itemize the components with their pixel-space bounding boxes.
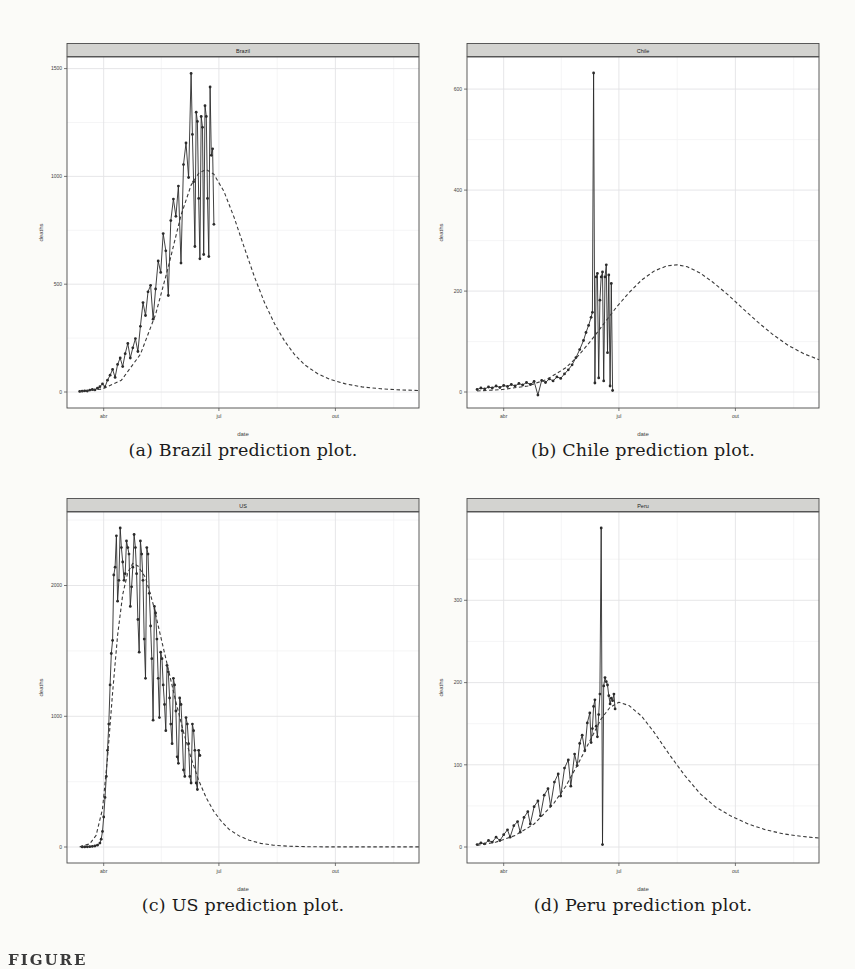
panel-brazil: Brazilabrjulout050010001500datedeaths (a… <box>36 43 426 460</box>
svg-text:abr: abr <box>500 868 508 874</box>
svg-text:0: 0 <box>459 389 462 395</box>
svg-text:out: out <box>732 413 740 419</box>
svg-text:200: 200 <box>454 679 463 685</box>
svg-text:abr: abr <box>100 413 108 419</box>
svg-text:0: 0 <box>59 389 62 395</box>
brazil-prediction-chart: Brazilabrjulout050010001500datedeaths <box>36 43 426 438</box>
svg-text:1500: 1500 <box>51 65 62 71</box>
panel-chile: Chileabrjulout0200400600datedeaths (b) C… <box>436 43 826 460</box>
svg-text:Chile: Chile <box>637 48 650 54</box>
svg-text:300: 300 <box>454 597 463 603</box>
svg-text:200: 200 <box>454 288 463 294</box>
svg-text:600: 600 <box>454 86 463 92</box>
panel-peru: Peruabrjulout0100200300datedeaths (d) Pe… <box>436 498 826 915</box>
svg-text:US: US <box>239 503 247 509</box>
brazil-chart-svg: Brazilabrjulout050010001500datedeaths <box>36 43 426 438</box>
svg-text:date: date <box>637 431 649 437</box>
svg-text:deaths: deaths <box>438 223 444 241</box>
svg-text:100: 100 <box>454 762 463 768</box>
svg-text:out: out <box>332 413 340 419</box>
caption-a: (a) Brazil prediction plot. <box>67 440 419 460</box>
svg-text:500: 500 <box>54 281 63 287</box>
us-chart-svg: USabrjulout010002000datedeaths <box>36 498 426 893</box>
svg-text:out: out <box>732 868 740 874</box>
chile-prediction-chart: Chileabrjulout0200400600datedeaths <box>436 43 826 438</box>
svg-text:jul: jul <box>215 868 221 874</box>
svg-text:0: 0 <box>459 844 462 850</box>
caption-b: (b) Chile prediction plot. <box>467 440 819 460</box>
svg-text:0: 0 <box>59 844 62 850</box>
svg-text:abr: abr <box>100 868 108 874</box>
us-prediction-chart: USabrjulout010002000datedeaths <box>36 498 426 893</box>
svg-text:jul: jul <box>215 413 221 419</box>
svg-text:2000: 2000 <box>51 582 62 588</box>
caption-c: (c) US prediction plot. <box>67 895 419 915</box>
figure-caption-partial: FIGURE <box>8 951 87 969</box>
svg-text:abr: abr <box>500 413 508 419</box>
svg-text:1000: 1000 <box>51 713 62 719</box>
panel-us: USabrjulout010002000datedeaths (c) US pr… <box>36 498 426 915</box>
svg-text:Peru: Peru <box>637 503 649 509</box>
peru-chart-svg: Peruabrjulout0100200300datedeaths <box>436 498 826 893</box>
svg-text:jul: jul <box>615 868 621 874</box>
svg-text:deaths: deaths <box>38 223 44 241</box>
svg-text:date: date <box>637 886 649 892</box>
svg-text:deaths: deaths <box>438 678 444 696</box>
svg-text:Brazil: Brazil <box>236 48 250 54</box>
svg-text:jul: jul <box>615 413 621 419</box>
chile-chart-svg: Chileabrjulout0200400600datedeaths <box>436 43 826 438</box>
svg-text:out: out <box>332 868 340 874</box>
svg-text:date: date <box>237 431 249 437</box>
svg-text:1000: 1000 <box>51 173 62 179</box>
svg-text:deaths: deaths <box>38 678 44 696</box>
peru-prediction-chart: Peruabrjulout0100200300datedeaths <box>436 498 826 893</box>
svg-text:date: date <box>237 886 249 892</box>
svg-text:400: 400 <box>454 187 463 193</box>
caption-d: (d) Peru prediction plot. <box>467 895 819 915</box>
